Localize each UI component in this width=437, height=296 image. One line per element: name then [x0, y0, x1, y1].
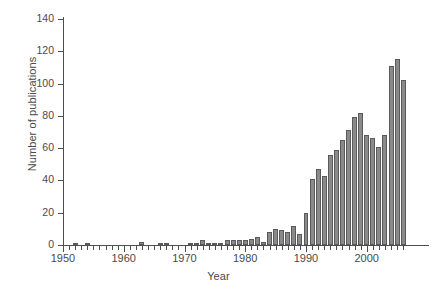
bar-2004 — [389, 66, 394, 245]
bar-1971 — [188, 243, 193, 245]
bar-series — [0, 0, 437, 296]
bar-1979 — [237, 240, 242, 245]
bar-1976 — [218, 243, 223, 245]
bar-1954 — [85, 243, 90, 245]
bar-1982 — [255, 237, 260, 245]
bar-1985 — [273, 229, 278, 245]
bar-1991 — [310, 179, 315, 245]
bar-2006 — [401, 80, 406, 245]
bar-1987 — [285, 232, 290, 245]
bar-1986 — [279, 230, 284, 245]
bar-1993 — [322, 176, 327, 245]
bar-1997 — [346, 130, 351, 245]
bar-1992 — [316, 169, 321, 245]
publications-bar-chart: Number of publications Year 020406080100… — [0, 0, 437, 296]
bar-1978 — [231, 240, 236, 245]
bar-1990 — [304, 213, 309, 245]
bar-1994 — [328, 155, 333, 245]
bar-2001 — [370, 138, 375, 245]
bar-1996 — [340, 140, 345, 245]
bar-1975 — [212, 243, 217, 245]
bar-1973 — [200, 240, 205, 245]
bar-1999 — [358, 113, 363, 245]
bar-2003 — [382, 135, 387, 245]
bar-1989 — [297, 234, 302, 245]
bar-1966 — [158, 243, 163, 245]
bar-1972 — [194, 243, 199, 245]
bar-1988 — [291, 226, 296, 245]
bar-1995 — [334, 150, 339, 245]
bar-1977 — [225, 240, 230, 245]
bar-1980 — [243, 240, 248, 245]
bar-1967 — [164, 243, 169, 245]
bar-1981 — [249, 239, 254, 245]
bar-1998 — [352, 117, 357, 245]
bar-1952 — [73, 243, 78, 245]
bar-1963 — [139, 242, 144, 245]
bar-2005 — [395, 59, 400, 245]
bar-1984 — [267, 232, 272, 245]
bar-1983 — [261, 242, 266, 245]
bar-1974 — [206, 243, 211, 245]
bar-2002 — [376, 147, 381, 245]
bar-2000 — [364, 135, 369, 245]
